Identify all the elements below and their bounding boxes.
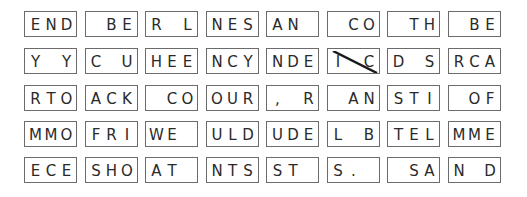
tile-letters: WE bbox=[149, 125, 195, 145]
tile-letters: SHO bbox=[89, 161, 135, 181]
tile-letter: N bbox=[210, 16, 225, 34]
tile-letter: U bbox=[270, 126, 285, 144]
tile-letter bbox=[331, 90, 346, 108]
tile-letter: L bbox=[331, 126, 346, 144]
letter-tile[interactable]: C U bbox=[85, 48, 138, 74]
tile-letters: ULD bbox=[210, 125, 256, 145]
letter-tile[interactable]: BE bbox=[85, 11, 138, 37]
tile-letter: N bbox=[286, 16, 301, 34]
letter-tile[interactable]: MME bbox=[448, 121, 501, 147]
letter-tile[interactable]: END bbox=[24, 11, 77, 37]
tile-letter: B bbox=[362, 126, 377, 144]
letter-tile[interactable]: NCY bbox=[206, 48, 259, 74]
tile-letter bbox=[89, 16, 104, 34]
tile-letter bbox=[286, 90, 301, 108]
tile-letters: RTO bbox=[28, 89, 74, 109]
tile-letter: U bbox=[225, 90, 240, 108]
letter-tile[interactable]: RTO bbox=[24, 85, 77, 111]
letter-tile[interactable]: D S bbox=[387, 48, 440, 74]
tile-letters: FRI bbox=[89, 125, 135, 145]
tile-letter: T bbox=[225, 162, 240, 180]
tile-letter: E bbox=[301, 53, 316, 71]
tile-letter: Y bbox=[241, 53, 256, 71]
tile-letter: R bbox=[301, 90, 316, 108]
tile-letter bbox=[362, 162, 377, 180]
letter-tile[interactable]: SA bbox=[387, 157, 440, 183]
tile-letter: F bbox=[483, 90, 498, 108]
tile-letter: L bbox=[225, 126, 240, 144]
letter-tile[interactable]: TEL bbox=[387, 121, 440, 147]
tile-letter: A bbox=[149, 162, 164, 180]
tile-letters: CO bbox=[331, 15, 377, 35]
letter-tile[interactable]: S. bbox=[327, 157, 380, 183]
tile-letters: NTS bbox=[210, 161, 256, 181]
tile-letter: K bbox=[120, 90, 135, 108]
letter-tile[interactable]: ULD bbox=[206, 121, 259, 147]
letter-tile[interactable]: , R bbox=[266, 85, 319, 111]
tile-letter: I bbox=[331, 53, 346, 71]
tile-letter: T bbox=[44, 90, 59, 108]
tile-letter: R bbox=[452, 53, 467, 71]
letter-tile[interactable]: CO bbox=[327, 11, 380, 37]
tile-letter: T bbox=[391, 126, 406, 144]
tile-letter: D bbox=[286, 126, 301, 144]
tile-letters: OF bbox=[452, 89, 498, 109]
letter-tile[interactable]: Y Y bbox=[24, 48, 77, 74]
letter-tile[interactable]: RCA bbox=[448, 48, 501, 74]
letter-tile[interactable]: HEE bbox=[145, 48, 198, 74]
tile-letter: N bbox=[270, 53, 285, 71]
tile-letters: AT bbox=[149, 161, 195, 181]
letter-tile[interactable]: STI bbox=[387, 85, 440, 111]
tile-letter: S bbox=[241, 16, 256, 34]
tile-letter: O bbox=[362, 16, 377, 34]
tile-letter bbox=[407, 53, 422, 71]
letter-tile[interactable]: ECE bbox=[24, 157, 77, 183]
tile-letter: C bbox=[362, 53, 377, 71]
tile-letter bbox=[301, 16, 316, 34]
tile-letters: SA bbox=[391, 161, 437, 181]
tile-letter: H bbox=[422, 16, 437, 34]
letter-tile[interactable]: AN bbox=[266, 11, 319, 37]
tile-letters: N D bbox=[452, 161, 498, 181]
tile-letter bbox=[44, 53, 59, 71]
tile-letter: N bbox=[362, 90, 377, 108]
letter-tile[interactable]: NDE bbox=[266, 48, 319, 74]
letter-tile[interactable]: WE bbox=[145, 121, 198, 147]
letter-tile[interactable]: ACK bbox=[85, 85, 138, 111]
tile-letters: ECE bbox=[28, 161, 74, 181]
letter-tile[interactable]: CO bbox=[145, 85, 198, 111]
tile-letter: U bbox=[210, 126, 225, 144]
tile-letter: E bbox=[301, 126, 316, 144]
letter-tile[interactable]: MMO bbox=[24, 121, 77, 147]
tile-letter: I bbox=[422, 90, 437, 108]
tile-letter: B bbox=[467, 16, 482, 34]
tile-letter: B bbox=[104, 16, 119, 34]
tile-letter: S bbox=[391, 90, 406, 108]
letter-tile[interactable]: AN bbox=[327, 85, 380, 111]
tile-letter: O bbox=[210, 90, 225, 108]
tile-letter: S bbox=[241, 162, 256, 180]
letter-tile[interactable]: UDE bbox=[266, 121, 319, 147]
tile-letters: NCY bbox=[210, 52, 256, 72]
tile-letter: L bbox=[180, 16, 195, 34]
letter-tile[interactable]: SHO bbox=[85, 157, 138, 183]
letter-tile[interactable]: R L bbox=[145, 11, 198, 37]
letter-tile[interactable]: NES bbox=[206, 11, 259, 37]
letter-tile[interactable]: BE bbox=[448, 11, 501, 37]
tile-letter: C bbox=[104, 90, 119, 108]
tile-letters: AN bbox=[331, 89, 377, 109]
letter-tile[interactable]: NTS bbox=[206, 157, 259, 183]
tile-letter bbox=[301, 162, 316, 180]
letter-tile[interactable]: OUR bbox=[206, 85, 259, 111]
letter-tile[interactable]: OF bbox=[448, 85, 501, 111]
letter-tile[interactable]: L B bbox=[327, 121, 380, 147]
tile-letter: S bbox=[422, 53, 437, 71]
letter-tile[interactable]: N D bbox=[448, 157, 501, 183]
tile-letters: I C bbox=[331, 52, 377, 72]
letter-tile[interactable]: AT bbox=[145, 157, 198, 183]
letter-tile[interactable]: ST bbox=[266, 157, 319, 183]
letter-tile[interactable]: TH bbox=[387, 11, 440, 37]
letter-tile[interactable]: FRI bbox=[85, 121, 138, 147]
letter-tile[interactable]: I C bbox=[327, 48, 380, 74]
tile-letters: OUR bbox=[210, 89, 256, 109]
